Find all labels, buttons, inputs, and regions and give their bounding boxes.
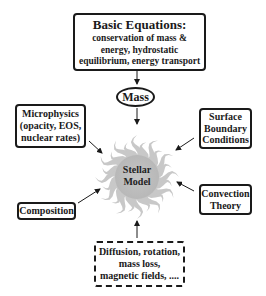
microphysics-line: (opacity, EOS, — [20, 120, 81, 132]
composition-label: Composition — [19, 205, 73, 217]
arrow-microphysics-to-model — [89, 141, 102, 153]
arrow-convection-to-model — [177, 182, 194, 191]
composition-box: Composition — [17, 202, 76, 220]
basic-equations-box: Basic Equations: conservation of mass & … — [73, 13, 206, 71]
stellar-model-line: Stellar — [107, 164, 167, 176]
microphysics-line: Microphysics — [22, 108, 79, 120]
arrow-surface-to-model — [176, 138, 194, 150]
convection-theory-box: Convection Theory — [199, 184, 252, 215]
additional-physics-box: Diffusion, rotation, mass loss, magnetic… — [94, 241, 185, 287]
surface-boundary-box: Surface Boundary Conditions — [199, 108, 252, 149]
stellar-model-label: Stellar Model — [107, 164, 167, 188]
extras-line: mass loss, — [119, 258, 161, 270]
extras-line: magnetic fields, .... — [100, 270, 179, 282]
surface-line: Conditions — [202, 134, 249, 146]
microphysics-box: Microphysics (opacity, EOS, nuclear rate… — [15, 104, 86, 148]
convection-line: Theory — [210, 200, 241, 212]
surface-line: Surface — [209, 111, 242, 123]
surface-line: Boundary — [204, 123, 247, 135]
basic-equations-line: energy, hydrostatic — [101, 45, 178, 56]
convection-line: Convection — [201, 188, 249, 200]
extras-line: Diffusion, rotation, — [99, 246, 180, 258]
mass-label: Mass — [122, 90, 149, 105]
basic-equations-line: equilibrium, energy transport — [79, 56, 200, 67]
stellar-model-line: Model — [107, 176, 167, 188]
microphysics-line: nuclear rates) — [21, 132, 80, 144]
arrow-composition-to-model — [78, 189, 100, 203]
mass-node: Mass — [116, 87, 155, 107]
basic-equations-line: conservation of mass & — [92, 33, 187, 44]
basic-equations-title: Basic Equations: — [93, 17, 187, 32]
